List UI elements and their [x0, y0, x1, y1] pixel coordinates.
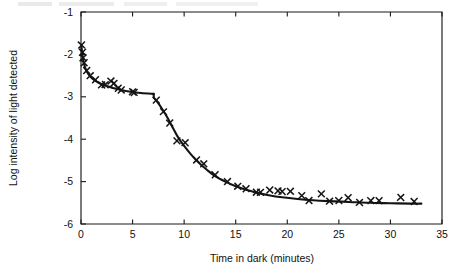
x-tick-label: 20	[281, 228, 293, 240]
data-point-marker	[153, 97, 160, 104]
x-tick-label: 30	[385, 228, 397, 240]
data-point-markers	[78, 41, 418, 206]
x-tick-label: 35	[436, 228, 448, 240]
data-point-marker	[318, 190, 325, 197]
dark-adaptation-chart: 05101520253035 -1-2-3-4-5-6 Time in dark…	[0, 0, 459, 269]
data-point-marker	[298, 192, 305, 199]
x-axis-tick-labels: 05101520253035	[78, 228, 448, 240]
x-tick-label: 10	[178, 228, 190, 240]
fitted-curve	[81, 46, 421, 204]
x-tick-label: 0	[78, 228, 84, 240]
y-tick-label: -1	[64, 6, 73, 18]
y-axis-title: Log intensity of light detected	[7, 50, 19, 186]
data-point-marker	[193, 156, 200, 163]
x-axis-title: Time in dark (minutes)	[210, 252, 314, 264]
data-point-marker	[345, 194, 352, 201]
y-tick-label: -4	[64, 133, 73, 145]
x-tick-label: 5	[130, 228, 136, 240]
x-tick-label: 15	[230, 228, 242, 240]
data-point-marker	[397, 194, 404, 201]
curve-cone-branch	[81, 46, 153, 94]
chart-svg: 05101520253035 -1-2-3-4-5-6 Time in dark…	[0, 0, 459, 269]
data-point-marker	[266, 187, 273, 194]
y-tick-label: -5	[64, 175, 73, 187]
y-tick-label: -6	[64, 218, 73, 230]
data-point-marker	[287, 188, 294, 195]
y-tick-label: -2	[64, 48, 73, 60]
y-tick-label: -3	[64, 90, 73, 102]
x-tick-label: 25	[333, 228, 345, 240]
y-axis-tick-labels: -1-2-3-4-5-6	[64, 6, 73, 230]
